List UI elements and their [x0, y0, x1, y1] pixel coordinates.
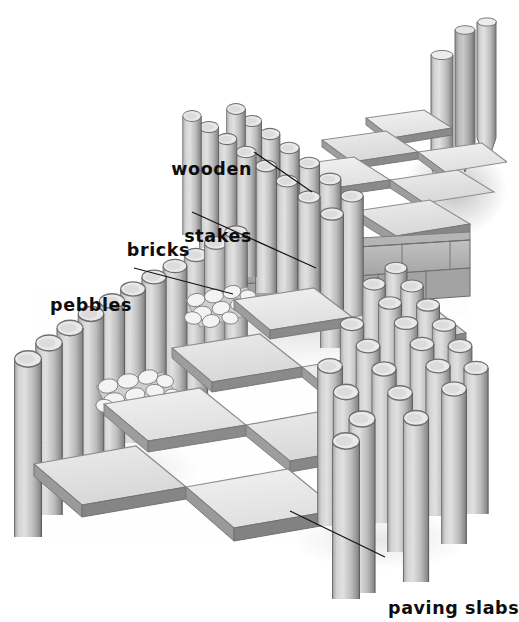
label-pebbles: pebbles	[26, 249, 132, 339]
label-pebbles-line1: pebbles	[26, 294, 132, 316]
label-paving-slabs: paving slabs	[388, 552, 506, 622]
label-wooden-stakes-line1: wooden	[140, 158, 252, 180]
label-paving-slabs-line1: paving slabs	[388, 597, 506, 619]
